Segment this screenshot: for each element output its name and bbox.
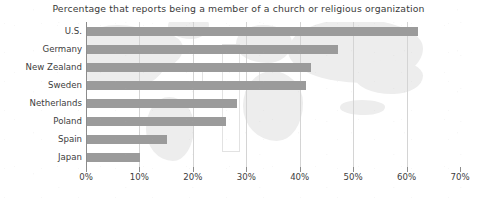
x-axis-tick-label: 0% bbox=[79, 172, 93, 182]
category-label: U.S. bbox=[0, 26, 82, 36]
bar bbox=[87, 27, 418, 36]
bars bbox=[86, 22, 460, 167]
x-axis-tick-mark bbox=[139, 167, 140, 172]
x-axis-tick-label: 60% bbox=[397, 172, 416, 182]
category-label: New Zealand bbox=[0, 62, 82, 72]
x-axis-tick-mark bbox=[407, 167, 408, 172]
category-label: Netherlands bbox=[0, 98, 82, 108]
bar bbox=[87, 63, 311, 72]
x-axis-tick-label: 40% bbox=[290, 172, 309, 182]
x-axis-tick-mark bbox=[353, 167, 354, 172]
bar bbox=[87, 99, 237, 108]
category-label: Spain bbox=[0, 134, 82, 144]
x-axis-tick-label: 30% bbox=[237, 172, 256, 182]
category-axis-labels: U.S.GermanyNew ZealandSwedenNetherlandsP… bbox=[0, 22, 82, 167]
category-label: Sweden bbox=[0, 80, 82, 90]
x-axis-tick-mark bbox=[460, 167, 461, 172]
x-axis-tick-label: 20% bbox=[183, 172, 202, 182]
chart-title: Percentage that reports being a member o… bbox=[0, 3, 477, 14]
bar bbox=[87, 117, 226, 126]
x-axis-tick-mark bbox=[86, 167, 87, 172]
bar bbox=[87, 153, 140, 162]
category-label: Japan bbox=[0, 152, 82, 162]
bar-chart: Percentage that reports being a member o… bbox=[0, 0, 477, 202]
x-axis-tick-label: 70% bbox=[450, 172, 469, 182]
x-axis-tick-label: 10% bbox=[130, 172, 149, 182]
y-axis-line bbox=[86, 22, 87, 167]
bar bbox=[87, 45, 338, 54]
x-axis-tick-labels: 0%10%20%30%40%50%60%70% bbox=[0, 172, 477, 188]
x-axis-tick-mark bbox=[246, 167, 247, 172]
bar bbox=[87, 81, 306, 90]
bar bbox=[87, 135, 167, 144]
x-axis-tick-label: 50% bbox=[344, 172, 363, 182]
category-label: Germany bbox=[0, 44, 82, 54]
category-label: Poland bbox=[0, 116, 82, 126]
x-axis-tick-mark bbox=[193, 167, 194, 172]
x-axis-tick-mark bbox=[300, 167, 301, 172]
plot-area bbox=[86, 22, 460, 167]
